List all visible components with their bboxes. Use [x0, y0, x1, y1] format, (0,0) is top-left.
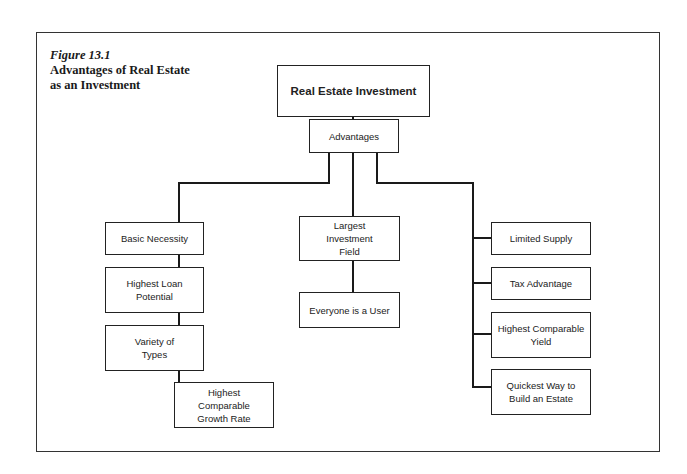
right-tick-yield: [472, 333, 491, 335]
left-node-basic-necessity: Basic Necessity: [105, 222, 204, 255]
center-node-largest-investment-field: Largest Investment Field: [299, 216, 400, 261]
figure-title-line-2: as an Investment: [50, 78, 190, 93]
right-node-highest-comparable-yield: Highest Comparable Yield: [491, 312, 591, 358]
right-node-quickest-way-to-build-an-estate: Quickest Way to Build an Estate: [491, 369, 591, 415]
node-line: Field: [326, 245, 372, 258]
node-line: Yield: [498, 335, 585, 348]
node-line: Comparable: [197, 399, 250, 412]
figure-caption: Figure 13.1 Advantages of Real Estate as…: [50, 48, 190, 93]
right-node-tax-advantage: Tax Advantage: [491, 267, 591, 300]
node-line: Highest Comparable: [498, 322, 585, 335]
right-tick-quickest: [472, 386, 491, 388]
node-line: Growth Rate: [197, 412, 250, 425]
right-branch-horizontal: [376, 182, 474, 184]
node-line: Basic Necessity: [121, 232, 188, 245]
node-line: Types: [135, 348, 174, 361]
advantages-node-label: Advantages: [329, 130, 379, 143]
figure-number: Figure 13.1: [50, 48, 190, 63]
node-line: Potential: [127, 290, 183, 303]
node-line: Highest Loan: [127, 277, 183, 290]
node-line: Tax Advantage: [510, 277, 572, 290]
right-branch-drop: [376, 152, 378, 184]
right-tick-limited: [472, 237, 491, 239]
node-line: Variety of: [135, 335, 174, 348]
node-line: Quickest Way to: [507, 379, 576, 392]
center-branch-line-2: [352, 260, 354, 292]
left-node-highest-loan-potential: Highest Loan Potential: [105, 267, 204, 313]
root-node: Real Estate Investment: [277, 65, 430, 117]
center-node-everyone-is-a-user: Everyone is a User: [299, 292, 400, 328]
left-node-highest-comparable-growth-rate: Highest Comparable Growth Rate: [174, 382, 274, 428]
left-node-variety-of-types: Variety of Types: [105, 325, 204, 371]
node-line: Everyone is a User: [309, 304, 389, 317]
node-line: Highest: [197, 386, 250, 399]
node-line: Investment: [326, 232, 372, 245]
left-branch-drop: [328, 152, 330, 184]
left-branch-horizontal: [178, 182, 330, 184]
node-line: Limited Supply: [510, 232, 572, 245]
right-branch-spine: [472, 182, 474, 388]
advantages-node: Advantages: [309, 119, 399, 153]
node-line: Build an Estate: [507, 392, 576, 405]
center-branch-line: [352, 152, 354, 216]
figure-title-line-1: Advantages of Real Estate: [50, 63, 190, 78]
right-node-limited-supply: Limited Supply: [491, 222, 591, 255]
right-tick-tax: [472, 282, 491, 284]
root-node-label: Real Estate Investment: [291, 85, 417, 98]
node-line: Largest: [326, 219, 372, 232]
